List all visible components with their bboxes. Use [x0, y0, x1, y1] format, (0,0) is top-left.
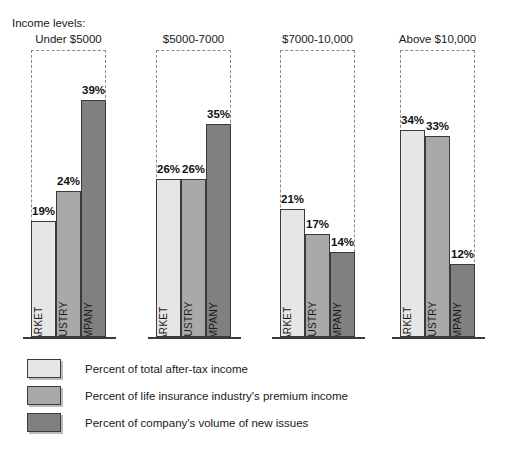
bar-series-label: COMPANY: [83, 302, 94, 337]
group-title-3: Above $10,000: [375, 33, 500, 45]
bar-series-label: MARKET: [282, 306, 293, 337]
bar-group0-company[interactable]: COMPANY: [81, 100, 106, 337]
legend-item-1: Percent of life insurance industry's pre…: [27, 386, 348, 405]
bar-series-label: INDUSTRY: [58, 301, 69, 337]
baseline-2: [272, 337, 365, 339]
legend-label-2: Percent of company's volume of new issue…: [85, 417, 308, 429]
bar-group1-company[interactable]: COMPANY: [206, 124, 231, 337]
bar-group0-industry[interactable]: INDUSTRY: [56, 191, 81, 337]
bar-group0-market[interactable]: MARKET: [31, 221, 56, 337]
legend-label-0: Percent of total after-tax income: [85, 363, 248, 375]
bar-value-group2-industry: 17%: [299, 218, 336, 230]
chart-caption: Income levels:: [12, 17, 86, 29]
bar-series-label: MARKET: [33, 306, 44, 337]
legend-label-1: Percent of life insurance industry's pre…: [85, 390, 348, 402]
legend-item-2: Percent of company's volume of new issue…: [27, 413, 308, 432]
baseline-3: [392, 337, 485, 339]
bar-series-label: INDUSTRY: [307, 301, 318, 337]
legend-item-0: Percent of total after-tax income: [27, 359, 248, 378]
bar-series-label: COMPANY: [332, 302, 343, 337]
baseline-0: [23, 337, 116, 339]
bar-group2-company[interactable]: COMPANY: [330, 252, 355, 337]
baseline-1: [148, 337, 241, 339]
group-title-0: Under $5000: [6, 33, 131, 45]
bar-group1-market[interactable]: MARKET: [156, 179, 181, 337]
bar-series-label: MARKET: [158, 306, 169, 337]
bar-group3-market[interactable]: MARKET: [400, 130, 425, 337]
bar-value-group0-company: 39%: [75, 84, 112, 96]
dark-gray-swatch-icon: [27, 413, 61, 432]
group-title-1: $5000-7000: [131, 33, 256, 45]
bar-series-label: INDUSTRY: [183, 301, 194, 337]
bar-value-group3-industry: 33%: [419, 120, 456, 132]
bar-series-label: COMPANY: [452, 302, 463, 337]
bar-value-group2-company: 14%: [324, 236, 361, 248]
medium-gray-swatch-icon: [27, 386, 61, 405]
bar-group3-industry[interactable]: INDUSTRY: [425, 136, 450, 337]
bar-group3-company[interactable]: COMPANY: [450, 264, 475, 337]
bar-group1-industry[interactable]: INDUSTRY: [181, 179, 206, 337]
bar-series-label: COMPANY: [208, 302, 219, 337]
bar-series-label: MARKET: [402, 306, 413, 337]
bar-value-group2-market: 21%: [274, 193, 311, 205]
group-title-2: $7000-10,000: [255, 33, 380, 45]
grouped-bar-chart: Income levels: Under $5000 $5000-7000 $7…: [0, 0, 506, 449]
bar-series-label: INDUSTRY: [427, 301, 438, 337]
bar-group2-industry[interactable]: INDUSTRY: [305, 234, 330, 337]
bar-value-group3-company: 12%: [444, 248, 481, 260]
light-gray-swatch-icon: [27, 359, 61, 378]
bar-value-group1-company: 35%: [200, 108, 237, 120]
